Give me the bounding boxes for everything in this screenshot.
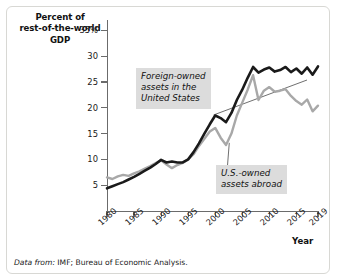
y-tick-label: 5: [58, 180, 98, 190]
y-tick-label: 15: [58, 129, 98, 139]
annotation-foreign-owned: Foreign-owned assets in the United State…: [136, 68, 211, 109]
source-note-text: IMF; Bureau of Economic Analysis.: [55, 258, 188, 267]
y-tick-label: 20: [58, 103, 98, 113]
y-axis-title-line-1: Percent of: [14, 12, 106, 23]
y-tick-label: 10: [58, 154, 98, 164]
annotation-leader-lines: [214, 80, 307, 172]
chart-figure: Percent of rest-of-the-world GDP 35%3025…: [0, 0, 338, 280]
y-tick-label: 25: [58, 77, 98, 87]
x-axis-title: Year: [292, 236, 313, 246]
y-tick-label: 30: [58, 51, 98, 61]
source-note: Data from: IMF; Bureau of Economic Analy…: [14, 258, 188, 267]
y-tick-label: 35%: [58, 25, 98, 35]
y-axis-title-line-3: GDP: [14, 35, 106, 46]
annotation-us-owned: U.S.-owned assets abroad: [216, 165, 287, 194]
source-note-lead: Data from:: [14, 258, 55, 267]
